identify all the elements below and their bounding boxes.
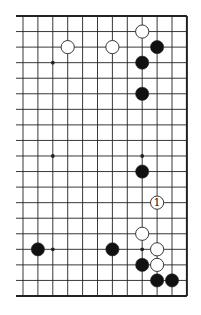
go-board-diagram: 1: [0, 0, 201, 315]
black-stone: [106, 243, 119, 256]
white-stone: 1: [151, 196, 164, 209]
white-stone: [151, 243, 164, 256]
black-stone: [151, 41, 164, 54]
star-point: [51, 61, 55, 65]
white-stone: [151, 258, 164, 271]
black-stone: [165, 274, 178, 287]
black-stone: [136, 56, 149, 69]
move-number-label: 1: [154, 196, 161, 209]
star-point: [51, 247, 55, 251]
white-stone: [61, 41, 74, 54]
black-stone: [151, 274, 164, 287]
white-stone: [136, 25, 149, 38]
star-point: [140, 247, 144, 251]
white-stone: [136, 227, 149, 240]
black-stone: [136, 87, 149, 100]
black-stone: [31, 243, 44, 256]
star-point: [140, 154, 144, 158]
black-stone: [136, 258, 149, 271]
white-stone: [106, 41, 119, 54]
star-point: [51, 154, 55, 158]
black-stone: [136, 165, 149, 178]
